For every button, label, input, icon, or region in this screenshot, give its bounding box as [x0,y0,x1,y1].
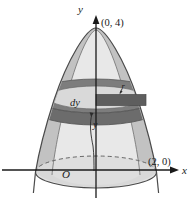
disk-cross-section-rect [96,95,146,106]
disk-thickness-label: dy [70,97,80,108]
figure-root: y x (0, 4) (2, 0) O dy r y [0,0,195,203]
origin-label: O [62,168,70,180]
height-label: y [92,119,98,130]
point-label-apex: (0, 4) [101,17,124,29]
point-label-x-intercept: (2, 0) [148,156,171,168]
x-axis-label: x [181,164,187,176]
paraboloid-diagram: y x (0, 4) (2, 0) O dy r y [0,0,195,203]
y-axis-label: y [77,3,83,15]
